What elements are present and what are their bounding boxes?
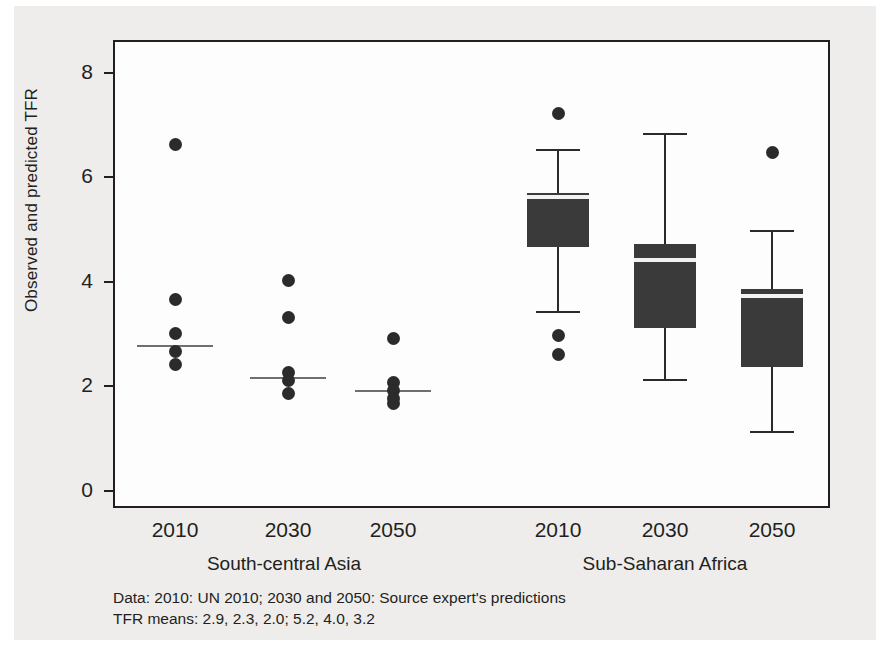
figure-root: 02468 Observed and predicted TFR 2010203… xyxy=(0,0,892,668)
x-tick-label-4: 2030 xyxy=(620,518,710,542)
whisker-upper-4 xyxy=(664,134,666,244)
x-tick-label-5: 2050 xyxy=(727,518,817,542)
data-point-0-2 xyxy=(169,327,182,340)
y-tick-mark xyxy=(104,281,113,283)
outlier-3-2 xyxy=(552,348,565,361)
caption-line-1: Data: 2010: UN 2010; 2030 and 2050: Sour… xyxy=(113,588,566,609)
x-tick-label-1: 2030 xyxy=(243,518,333,542)
group-label-0: South-central Asia xyxy=(134,553,434,575)
box-5 xyxy=(741,289,803,367)
box-median-4 xyxy=(634,258,696,262)
box-median-3 xyxy=(527,195,589,199)
data-point-1-0 xyxy=(282,274,295,287)
y-tick-mark xyxy=(104,385,113,387)
data-point-2-0 xyxy=(387,332,400,345)
box-3 xyxy=(527,193,589,247)
y-tick-label: 0 xyxy=(53,479,93,500)
y-tick-mark xyxy=(104,176,113,178)
whisker-lower-5 xyxy=(771,367,773,432)
whisker-cap-upper-5 xyxy=(750,230,794,232)
data-point-0-1 xyxy=(169,293,182,306)
data-point-1-3 xyxy=(282,374,295,387)
y-tick-label: 8 xyxy=(53,61,93,82)
y-tick-mark xyxy=(104,490,113,492)
figure-caption: Data: 2010: UN 2010; 2030 and 2050: Sour… xyxy=(113,588,566,630)
plot-marks-layer xyxy=(113,40,830,508)
outlier-5-0 xyxy=(766,146,779,159)
whisker-upper-3 xyxy=(557,150,559,193)
whisker-cap-lower-4 xyxy=(643,379,687,381)
data-point-2-4 xyxy=(387,397,400,410)
box-median-5 xyxy=(741,294,803,298)
group-label-1: Sub-Saharan Africa xyxy=(515,553,815,575)
x-tick-label-3: 2010 xyxy=(513,518,603,542)
box-4 xyxy=(634,244,696,328)
whisker-lower-3 xyxy=(557,247,559,312)
whisker-cap-upper-4 xyxy=(643,133,687,135)
whisker-cap-lower-3 xyxy=(536,311,580,313)
outlier-3-0 xyxy=(552,107,565,120)
y-tick-label: 2 xyxy=(53,374,93,395)
y-tick-label: 6 xyxy=(53,165,93,186)
y-tick-label: 4 xyxy=(53,270,93,291)
data-point-1-1 xyxy=(282,311,295,324)
whisker-upper-5 xyxy=(771,231,773,289)
data-point-0-4 xyxy=(169,358,182,371)
whisker-lower-4 xyxy=(664,328,666,380)
outlier-3-1 xyxy=(552,329,565,342)
whisker-cap-lower-5 xyxy=(750,431,794,433)
x-tick-label-0: 2010 xyxy=(130,518,220,542)
y-axis-title: Observed and predicted TFR xyxy=(22,50,42,350)
caption-line-2: TFR means: 2.9, 2.3, 2.0; 5.2, 4.0, 3.2 xyxy=(113,609,566,630)
data-point-0-3 xyxy=(169,345,182,358)
y-tick-mark xyxy=(104,72,113,74)
whisker-cap-upper-3 xyxy=(536,149,580,151)
data-point-1-4 xyxy=(282,387,295,400)
data-point-0-0 xyxy=(169,138,182,151)
x-tick-label-2: 2050 xyxy=(348,518,438,542)
